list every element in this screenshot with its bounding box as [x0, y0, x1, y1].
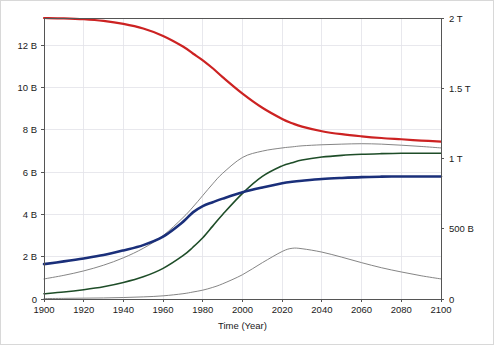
- x-tick-label: 2020: [272, 304, 293, 315]
- plot-frame: [45, 19, 442, 300]
- x-tick-label: 2060: [351, 304, 372, 315]
- y-tick-label-left: 6 B: [23, 167, 37, 178]
- x-tick-label: 1940: [113, 304, 134, 315]
- y-axis-left-tick-labels: 02 B4 B6 B8 B10 B12 B: [17, 40, 37, 305]
- x-tick-label: 1960: [153, 304, 174, 315]
- x-axis-tick-labels: 1900192019401960198020002020204020602080…: [33, 304, 451, 315]
- y-tick-label-right: 0: [449, 294, 454, 305]
- gridlines: [44, 18, 441, 299]
- x-tick-label: 2080: [391, 304, 412, 315]
- y-tick-label-left: 12 B: [17, 40, 37, 51]
- x-tick-label: 2100: [430, 304, 451, 315]
- y-tick-label-left: 8 B: [23, 124, 37, 135]
- x-tick-label: 1900: [33, 304, 54, 315]
- y-tick-label-left: 10 B: [17, 82, 37, 93]
- line-chart: 1900192019401960198020002020204020602080…: [1, 1, 494, 345]
- y-tick-label-left: 4 B: [23, 209, 37, 220]
- y-tick-label-right: 500 B: [449, 223, 474, 234]
- y-tick-label-right: 1.5 T: [449, 83, 471, 94]
- x-axis-title: Time (Year): [218, 320, 267, 331]
- x-tick-label: 2040: [311, 304, 332, 315]
- chart-container: 1900192019401960198020002020204020602080…: [0, 0, 494, 345]
- y-tick-label-left: 0: [32, 294, 37, 305]
- x-tick-label: 1920: [73, 304, 94, 315]
- x-tick-label: 2000: [232, 304, 253, 315]
- x-tick-label: 1980: [192, 304, 213, 315]
- y-tick-label-left: 2 B: [23, 251, 37, 262]
- y-axis-right-tick-labels: 0500 B1 T1.5 T2 T: [449, 13, 474, 305]
- y-tick-label-right: 1 T: [449, 153, 463, 164]
- y-tick-label-right: 2 T: [449, 13, 463, 24]
